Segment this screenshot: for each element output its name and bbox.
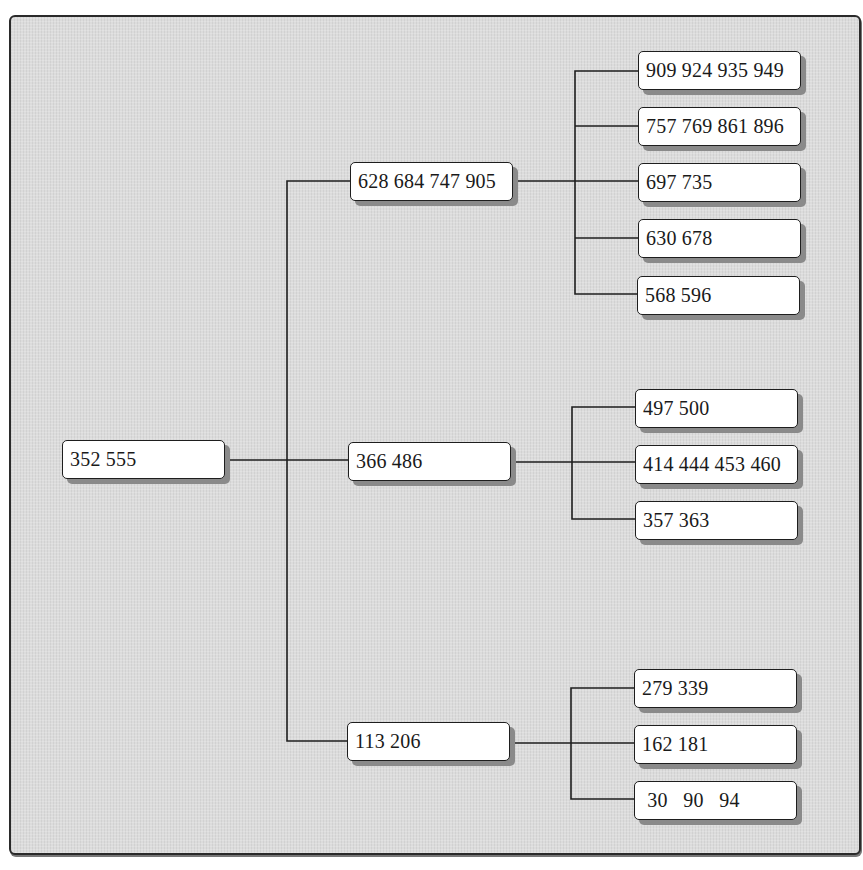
leaf-node: 697 735 bbox=[638, 163, 801, 202]
leaf-node: 357 363 bbox=[635, 501, 798, 540]
leaf-node: 162 181 bbox=[634, 725, 797, 764]
node-label: 352 555 bbox=[70, 448, 136, 471]
leaf-node: 568 596 bbox=[637, 276, 800, 315]
node-label: 414 444 453 460 bbox=[643, 453, 781, 476]
node-label: 628 684 747 905 bbox=[358, 170, 496, 193]
node-label: 630 678 bbox=[646, 227, 712, 250]
leaf-node: 279 339 bbox=[634, 669, 797, 708]
node-label: 909 924 935 949 bbox=[646, 59, 784, 82]
node-label: 366 486 bbox=[356, 450, 422, 473]
internal-node-bottom: 113 206 bbox=[347, 722, 510, 761]
internal-node-top: 628 684 747 905 bbox=[350, 162, 513, 201]
leaf-node: 757 769 861 896 bbox=[638, 107, 801, 146]
leaf-node: 414 444 453 460 bbox=[635, 445, 798, 484]
node-label: 357 363 bbox=[643, 509, 709, 532]
node-label: 30 90 94 bbox=[642, 789, 740, 812]
leaf-node: 909 924 935 949 bbox=[638, 51, 801, 90]
node-label: 568 596 bbox=[645, 284, 711, 307]
root-node: 352 555 bbox=[62, 440, 225, 479]
leaf-node: 630 678 bbox=[638, 219, 801, 258]
node-label: 497 500 bbox=[643, 397, 709, 420]
node-label: 113 206 bbox=[355, 730, 421, 753]
leaf-node: 497 500 bbox=[635, 389, 798, 428]
node-label: 162 181 bbox=[642, 733, 708, 756]
internal-node-middle: 366 486 bbox=[348, 442, 511, 481]
leaf-node: 30 90 94 bbox=[634, 781, 797, 820]
node-label: 697 735 bbox=[646, 171, 712, 194]
node-label: 757 769 861 896 bbox=[646, 115, 784, 138]
node-label: 279 339 bbox=[642, 677, 708, 700]
